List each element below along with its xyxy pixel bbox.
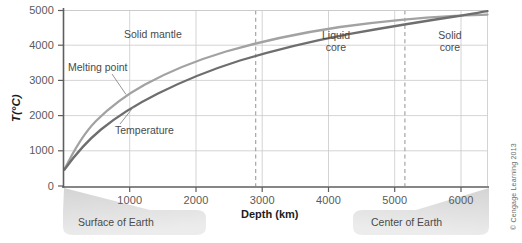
copyright-credit: © Cengage Learning 2013 bbox=[510, 143, 517, 230]
region-label-solid-core-line1: Solid bbox=[422, 30, 478, 42]
curve-annotation-temperature: Temperature bbox=[115, 124, 174, 136]
y-axis-ticks bbox=[58, 11, 64, 187]
callout-label-surface-of-earth: Surface of Earth bbox=[78, 216, 154, 228]
x-tick-label-2000: 2000 bbox=[166, 194, 226, 206]
x-axis-title: Depth (km) bbox=[241, 208, 298, 220]
curve-annotation-melting-point: Melting point bbox=[68, 61, 128, 73]
region-label-solid-core-line2: core bbox=[422, 42, 478, 54]
x-tick-label-6000: 6000 bbox=[431, 194, 491, 206]
y-axis-title: T(°C) bbox=[10, 94, 22, 122]
region-label-liquid-core-line2: core bbox=[306, 42, 366, 54]
x-tick-label-4000: 4000 bbox=[299, 194, 359, 206]
figure-root: 5000 4000 3000 2000 1000 0 T(°C) 1000 20… bbox=[0, 0, 522, 243]
region-label-solid-mantle: Solid mantle bbox=[124, 29, 182, 41]
x-tick-label-5000: 5000 bbox=[365, 194, 425, 206]
region-label-liquid-core-line1: Liquid bbox=[306, 30, 366, 42]
y-tick-label-0: 0 bbox=[8, 180, 54, 192]
callout-label-center-of-earth: Center of Earth bbox=[371, 216, 442, 228]
x-tick-label-3000: 3000 bbox=[232, 194, 292, 206]
y-tick-label-5000: 5000 bbox=[8, 4, 54, 16]
y-tick-label-3000: 3000 bbox=[8, 74, 54, 86]
y-tick-label-4000: 4000 bbox=[8, 39, 54, 51]
x-tick-label-1000: 1000 bbox=[100, 194, 160, 206]
y-tick-label-1000: 1000 bbox=[8, 144, 54, 156]
